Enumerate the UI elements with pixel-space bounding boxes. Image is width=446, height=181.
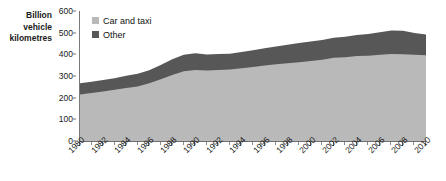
y-axis-tick-label: 300 (59, 71, 73, 81)
legend-item: Car and taxi (92, 14, 152, 27)
y-axis-tick-label: 500 (59, 28, 73, 38)
y-axis-title-line-1: Billion (0, 10, 52, 22)
y-axis-tick-mark (73, 76, 76, 77)
x-axis-tick-labels: 1980198219841986198819901992199419961998… (0, 146, 446, 181)
legend-item-label: Car and taxi (103, 16, 152, 26)
legend: Car and taxiOther (92, 14, 152, 42)
y-axis-tick-label: 400 (59, 49, 73, 59)
y-axis-tick-mark (73, 54, 76, 55)
y-axis-tick-mark (73, 11, 76, 12)
y-axis-tick-mark (73, 119, 76, 120)
y-axis-title-line-2: vehicle (0, 22, 52, 34)
y-axis-tick-mark (73, 32, 76, 33)
y-axis-title-line-3: kilometres (0, 33, 52, 45)
y-axis-tick-label: 600 (59, 6, 73, 16)
y-axis-tick-mark (73, 97, 76, 98)
legend-swatch-icon (92, 17, 99, 24)
legend-item: Other (92, 28, 152, 41)
stacked-area-chart: Billion vehicle kilometres 0100200300400… (0, 0, 446, 181)
legend-swatch-icon (92, 31, 99, 38)
legend-item-label: Other (103, 30, 126, 40)
y-axis-tick-label: 100 (59, 114, 73, 124)
area-series-car-and-taxi (80, 54, 426, 141)
y-axis-tick-label: 200 (59, 93, 73, 103)
y-axis-title: Billion vehicle kilometres (0, 10, 52, 45)
